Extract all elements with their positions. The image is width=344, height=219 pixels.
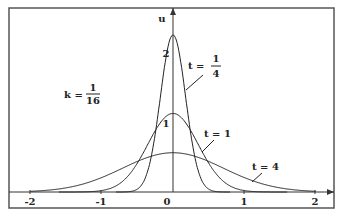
x-tick-label: -2 [24, 196, 35, 207]
chart-frame [9, 8, 334, 208]
y-tick-label: 2 [163, 48, 170, 59]
label-t-1: t = 1 [202, 128, 231, 152]
svg-text:1: 1 [90, 82, 97, 93]
x-tick-label: -1 [95, 196, 106, 207]
u-axis-label: u [158, 13, 165, 24]
svg-text:4: 4 [213, 68, 220, 79]
svg-text:k =: k = [64, 89, 83, 100]
y-tick-label: 1 [163, 118, 170, 129]
x-tick-label: 1 [241, 196, 248, 207]
svg-text:16: 16 [86, 95, 100, 106]
label-t-4: t = 4 [252, 161, 279, 182]
x-tick-label: 2 [312, 196, 319, 207]
x-tick-label: 0 [164, 196, 171, 207]
svg-text:t =: t = [188, 60, 204, 71]
x-axis-arrow-icon [327, 189, 334, 195]
label-t-quarter: t = 1 4 [186, 53, 221, 90]
x-tick-labels: -2 -1 0 1 2 [24, 196, 318, 207]
svg-text:1: 1 [213, 53, 220, 64]
svg-text:t = 1: t = 1 [204, 128, 231, 139]
svg-text:t = 4: t = 4 [252, 161, 279, 172]
u-axis-arrow-icon [170, 8, 176, 15]
k-annotation: k = 1 16 [64, 82, 100, 106]
heat-kernel-chart: -2 -1 0 1 2 1 2 u k = 1 16 t = 1 4 t = 1… [0, 0, 344, 219]
